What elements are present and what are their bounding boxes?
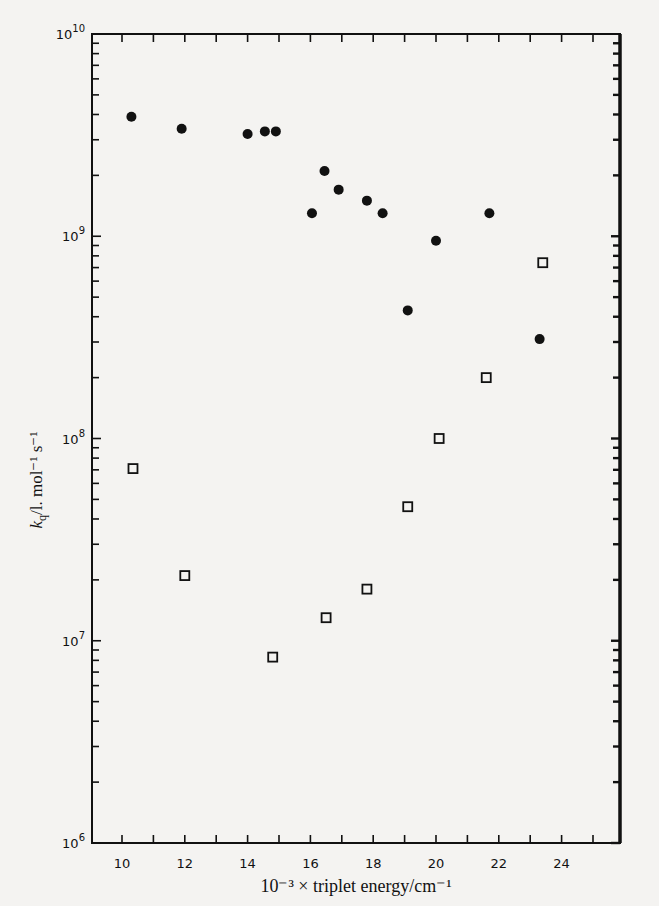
y-tick-label: 1010 [56,23,85,42]
plot-frame [92,34,620,843]
open-square-point [482,373,491,382]
x-tick-label: 24 [553,856,570,871]
x-tick-labels: 1012141618202224 [114,856,570,871]
y-tick-label: 108 [62,428,85,447]
filled-circle-point [307,208,317,218]
filled-circle-point [403,305,413,315]
filled-circle-point [126,112,136,122]
y-axis-title: kq/l. mol⁻¹ s⁻¹ [27,432,49,529]
open-square-point [538,258,547,267]
x-tick-label: 20 [428,856,445,871]
filled-circle-point [362,196,372,206]
x-axis-title: 10⁻³ × triplet energy/cm⁻¹ [260,876,451,896]
filled-circle-point [535,334,545,344]
open-square-point [128,464,137,473]
open-square-point [362,585,371,594]
filled-circle-point [334,185,344,195]
x-tick-label: 16 [302,856,319,871]
open-square-point [403,502,412,511]
filled-circle-point [260,126,270,136]
filled-circle-point [271,126,281,136]
axis-ticks [92,34,620,843]
open-square-point [268,653,277,662]
plot-border [92,34,620,843]
filled-circle-point [484,208,494,218]
filled-circle-point [431,236,441,246]
data-points [126,112,547,662]
y-tick-label: 107 [62,630,85,649]
open-square-point [180,571,189,580]
open-square-point [435,434,444,443]
x-tick-label: 14 [239,856,256,871]
filled-circle-point [378,208,388,218]
y-tick-label: 109 [62,225,85,244]
x-tick-label: 12 [177,856,194,871]
filled-circle-point [320,166,330,176]
x-tick-label: 10 [114,856,131,871]
y-tick-label: 106 [62,832,85,851]
y-tick-labels: 1061071081091010 [56,23,85,851]
filled-circle-point [177,124,187,134]
filled-circle-point [243,129,253,139]
scatter-chart: 1012141618202224 1061071081091010 10⁻³ ×… [0,0,659,906]
open-square-point [322,613,331,622]
x-tick-label: 22 [491,856,508,871]
x-tick-label: 18 [365,856,382,871]
